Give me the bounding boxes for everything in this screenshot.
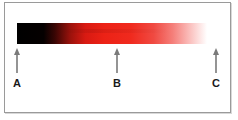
marker-a: A [11,48,23,90]
up-arrow-icon [111,48,123,76]
up-arrow-icon [210,48,222,76]
up-arrow-icon [11,48,23,76]
marker-label-b: B [111,77,123,89]
color-gradient-bar [17,23,207,44]
marker-b: B [111,48,123,90]
marker-label-a: A [11,77,23,89]
marker-label-c: C [210,77,222,89]
marker-c: C [210,48,222,90]
